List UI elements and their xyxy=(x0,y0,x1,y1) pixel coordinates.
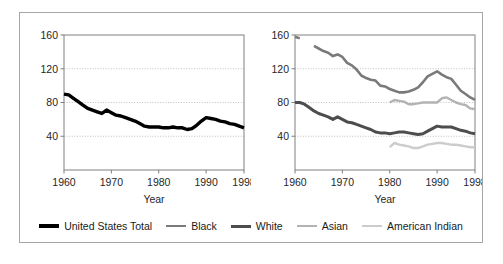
legend-item-label: American Indian xyxy=(387,221,463,232)
x-tick-label-1980: 1980 xyxy=(378,176,402,188)
legend-item-american-indian[interactable]: American Indian xyxy=(362,221,463,232)
x-tick-label-1960: 1960 xyxy=(52,176,76,188)
y-tick-label-80: 80 xyxy=(277,96,289,108)
legend-item-label: Black xyxy=(191,221,217,232)
legend-item-united-states-total[interactable]: United States Total xyxy=(39,221,152,232)
legend-swatch-icon xyxy=(166,225,186,228)
series-line-american-indian xyxy=(390,143,475,148)
line-chart-us-total: 408012016019601970198019901998Year xyxy=(20,13,251,211)
legend-swatch-icon xyxy=(231,225,251,228)
legend-item-black[interactable]: Black xyxy=(166,221,217,232)
y-tick-label-120: 120 xyxy=(40,63,58,75)
x-axis-title: Year xyxy=(374,193,396,205)
y-tick-label-160: 160 xyxy=(40,29,58,41)
y-tick-label-160: 160 xyxy=(271,29,289,41)
chart-panel-right: 408012016019601970198019901998Year xyxy=(251,13,482,211)
figure-frame: 408012016019601970198019901998Year 40801… xyxy=(19,12,483,243)
legend-item-label: White xyxy=(256,221,283,232)
series-line-black xyxy=(314,46,475,100)
legend-swatch-icon xyxy=(362,225,382,227)
y-tick-label-80: 80 xyxy=(46,96,58,108)
series-line-asian xyxy=(390,97,475,109)
x-tick-label-1998: 1998 xyxy=(232,176,251,188)
legend-swatch-icon xyxy=(297,225,317,227)
y-tick-label-120: 120 xyxy=(271,63,289,75)
x-tick-label-1990: 1990 xyxy=(194,176,218,188)
figure-root: 408012016019601970198019901998Year 40801… xyxy=(0,0,503,264)
legend-item-asian[interactable]: Asian xyxy=(297,221,348,232)
legend-item-label: United States Total xyxy=(64,221,152,232)
chart-panel-left: 408012016019601970198019901998Year xyxy=(20,13,251,211)
x-axis-title: Year xyxy=(143,193,165,205)
x-tick-label-1990: 1990 xyxy=(425,176,449,188)
chart-panels: 408012016019601970198019901998Year 40801… xyxy=(20,13,482,211)
x-tick-label-1960: 1960 xyxy=(283,176,307,188)
legend-item-white[interactable]: White xyxy=(231,221,283,232)
legend-item-label: Asian xyxy=(322,221,348,232)
x-tick-label-1970: 1970 xyxy=(331,176,355,188)
y-tick-label-40: 40 xyxy=(277,130,289,142)
x-tick-label-1970: 1970 xyxy=(100,176,124,188)
series-line-black xyxy=(295,37,300,39)
x-tick-label-1980: 1980 xyxy=(147,176,171,188)
series-line-united-states-total xyxy=(64,94,244,129)
x-tick-label-1998: 1998 xyxy=(463,176,482,188)
series-line-white xyxy=(295,103,475,135)
y-tick-label-40: 40 xyxy=(46,130,58,142)
line-chart-by-race: 408012016019601970198019901998Year xyxy=(251,13,482,211)
legend-swatch-icon xyxy=(39,224,59,227)
chart-legend: United States TotalBlackWhiteAsianAmeric… xyxy=(20,211,482,241)
